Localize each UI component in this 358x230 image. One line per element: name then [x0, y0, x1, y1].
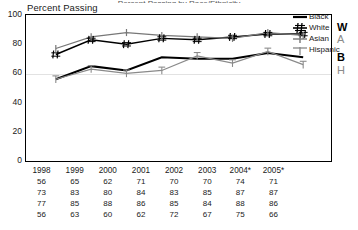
- table-cell: 88: [91, 198, 124, 209]
- table-col-header: 2003: [191, 165, 224, 176]
- table-cell: 56: [25, 176, 58, 187]
- y-tick-100: 100: [0, 10, 22, 19]
- legend-label: Asian: [309, 33, 329, 44]
- table-col-header: 2001: [124, 165, 157, 176]
- legend-item: Hispanic: [292, 44, 358, 55]
- data-table: 1998199920002001200220032004*2005* 56656…: [25, 165, 290, 220]
- table-cell: 60: [91, 209, 124, 220]
- table-cell: 84: [124, 187, 157, 198]
- table-cell: 86: [124, 198, 157, 209]
- plot-area: [25, 14, 332, 162]
- table-row: 7383808483858787: [25, 187, 290, 198]
- table-cell: 72: [158, 209, 191, 220]
- series-layer: [26, 15, 331, 161]
- y-axis-title: Percent Passing: [27, 2, 98, 13]
- table-col-header: 1998: [25, 165, 58, 176]
- y-tick-60: 60: [0, 68, 22, 77]
- table-cell: 62: [91, 176, 124, 187]
- table-cell: 80: [91, 187, 124, 198]
- data-table-wrap: 1998199920002001200220032004*2005* 56656…: [25, 165, 358, 230]
- table-cell: 74: [224, 176, 257, 187]
- table-col-header: 1999: [58, 165, 91, 176]
- table-cell: 85: [191, 187, 224, 198]
- table-cell: 87: [257, 187, 290, 198]
- table-cell: 84: [191, 198, 224, 209]
- solid-line-marker: [292, 11, 309, 22]
- table-cell: 70: [191, 176, 224, 187]
- table-cell: 85: [158, 198, 191, 209]
- table-header-row: 1998199920002001200220032004*2005*: [25, 165, 290, 176]
- table-cell: 66: [257, 209, 290, 220]
- table-cell: 83: [58, 187, 91, 198]
- data-point-hispanic: [229, 60, 236, 67]
- table-cell: 70: [158, 176, 191, 187]
- legend-label: White: [309, 22, 329, 33]
- table-cell: 83: [158, 187, 191, 198]
- table-col-header: 2000: [91, 165, 124, 176]
- table-cell: 71: [257, 176, 290, 187]
- table-row: 7785888685848886: [25, 198, 290, 209]
- y-tick-80: 80: [0, 39, 22, 48]
- legend-item: White: [292, 22, 358, 33]
- table-cell: 62: [124, 209, 157, 220]
- plus-marker: [292, 33, 309, 44]
- edge-label-hispanic: H: [337, 65, 345, 76]
- y-tick-0: 0: [0, 156, 22, 165]
- table-col-header: 2002: [158, 165, 191, 176]
- table-row: 5663606272677566: [25, 209, 290, 220]
- table-cell: 67: [191, 209, 224, 220]
- table-cell: 88: [224, 198, 257, 209]
- table-row: 5665627170707471: [25, 176, 290, 187]
- table-cell: 85: [58, 198, 91, 209]
- table-cell: 63: [58, 209, 91, 220]
- hash-marker: [292, 22, 309, 33]
- data-point-hispanic: [300, 61, 307, 68]
- table-cell: 87: [224, 187, 257, 198]
- table-cell: 75: [224, 209, 257, 220]
- table-cell: 73: [25, 187, 58, 198]
- legend-item: Black: [292, 11, 358, 22]
- legend-item: Asian: [292, 33, 358, 44]
- table-cell: 65: [58, 176, 91, 187]
- y-tick-20: 20: [0, 127, 22, 136]
- table-cell: 71: [124, 176, 157, 187]
- table-cell: 56: [25, 209, 58, 220]
- y-tick-40: 40: [0, 98, 22, 107]
- tee-marker: [292, 44, 309, 55]
- table-col-header: 2004*: [224, 165, 257, 176]
- table-cell: 86: [257, 198, 290, 209]
- legend-label: Hispanic: [309, 44, 340, 55]
- legend-label: Black: [309, 11, 329, 22]
- legend: BlackWhiteAsianHispanic: [292, 11, 358, 55]
- table-col-header: 2005*: [257, 165, 290, 176]
- table-cell: 77: [25, 198, 58, 209]
